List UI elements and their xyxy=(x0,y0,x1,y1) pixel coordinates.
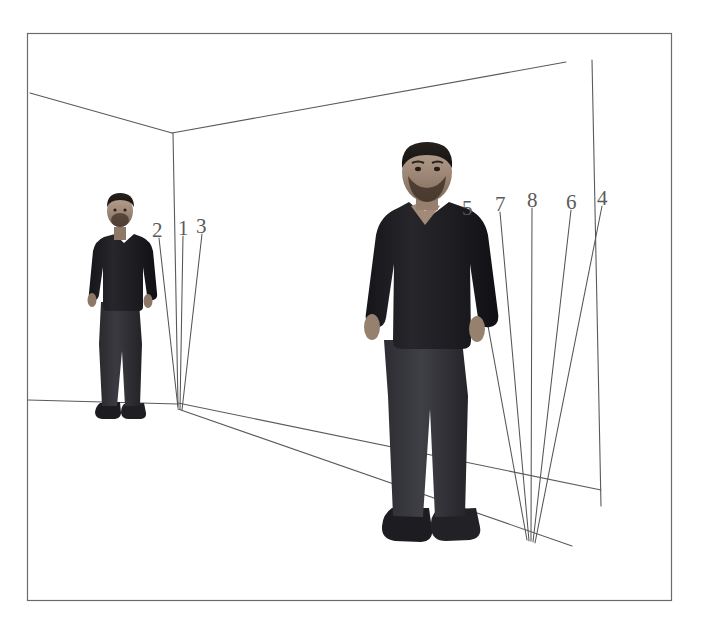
leader-line-4 xyxy=(535,206,602,543)
far-eye-right xyxy=(124,209,127,212)
far-neck xyxy=(114,227,126,240)
annotation-label-6: 6 xyxy=(566,192,577,213)
near-hand-right xyxy=(469,316,485,342)
annotation-label-7: 7 xyxy=(495,194,506,215)
leader-line-3 xyxy=(182,234,202,410)
standing-person-far xyxy=(88,193,158,419)
annotation-label-5: 5 xyxy=(462,198,473,219)
near-eye-right xyxy=(434,167,440,171)
annotation-label-1: 1 xyxy=(178,218,189,239)
standing-person-near xyxy=(364,142,498,542)
annotation-label-3: 3 xyxy=(196,216,207,237)
near-jeans xyxy=(384,340,468,517)
far-hand-left xyxy=(88,293,97,307)
ceiling-line-left xyxy=(30,93,172,133)
right-wall-edge xyxy=(592,60,601,506)
corner-vertical-line xyxy=(173,133,178,406)
far-beard xyxy=(111,213,129,227)
ceiling-line-right xyxy=(172,62,566,133)
far-hand-right xyxy=(144,294,153,308)
floor-front-edge xyxy=(178,409,572,546)
leader-line-7 xyxy=(500,212,529,541)
leader-line-8 xyxy=(531,208,532,541)
annotation-label-4: 4 xyxy=(597,188,608,209)
annotation-label-8: 8 xyxy=(527,190,538,211)
room-perspective-svg xyxy=(0,0,705,631)
near-eye-left xyxy=(415,167,421,171)
near-hand-left xyxy=(364,314,380,340)
leader-line-6 xyxy=(533,210,571,542)
diagram-canvas: 21357864 xyxy=(0,0,705,631)
far-jeans xyxy=(99,302,142,406)
annotation-label-2: 2 xyxy=(152,220,163,241)
far-eye-left xyxy=(114,209,117,212)
leader-line-1 xyxy=(180,236,183,409)
